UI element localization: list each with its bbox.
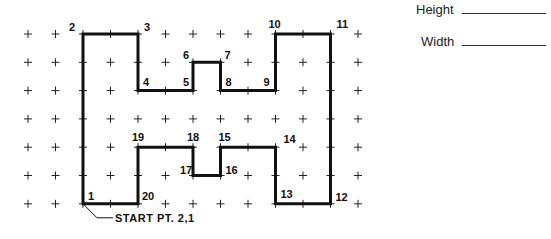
point-label-13: 13 — [281, 188, 293, 200]
grid-plus-marker — [354, 143, 362, 151]
grid-plus-marker — [107, 58, 115, 66]
point-label-4: 4 — [143, 76, 150, 88]
grid-plus-marker — [52, 143, 60, 151]
grid-plus-marker — [24, 200, 32, 208]
grid-plus-marker — [24, 143, 32, 151]
point-label-19: 19 — [132, 131, 144, 143]
grid-plus-marker — [244, 115, 252, 123]
grid-plus-marker — [24, 30, 32, 38]
grid-plus-marker — [52, 115, 60, 123]
grid-plus-marker — [217, 200, 225, 208]
point-label-15: 15 — [219, 131, 231, 143]
grid-plus-marker — [52, 172, 60, 180]
grid-plus-marker — [52, 30, 60, 38]
grid-plus-marker — [134, 115, 142, 123]
point-label-12: 12 — [336, 191, 348, 203]
grid-plus-marker — [299, 143, 307, 151]
grid-plus-marker — [354, 87, 362, 95]
grid-plus-marker — [107, 143, 115, 151]
grid-plus-marker — [217, 115, 225, 123]
grid-plus-marker — [299, 58, 307, 66]
grid-plus-marker — [244, 200, 252, 208]
grid-plus-marker — [354, 172, 362, 180]
grid-plus-marker — [107, 115, 115, 123]
grid-plus-marker — [24, 115, 32, 123]
grid-plus-marker — [52, 58, 60, 66]
grid-plus-marker — [244, 172, 252, 180]
grid-plus-marker — [24, 172, 32, 180]
point-label-18: 18 — [187, 131, 199, 143]
start-point-leader-line — [83, 204, 113, 218]
grid-plus-marker — [244, 30, 252, 38]
point-label-1: 1 — [88, 190, 94, 202]
grid-plus-marker — [272, 115, 280, 123]
grid-plus-marker — [217, 30, 225, 38]
point-label-3: 3 — [144, 21, 150, 33]
grid-plus-marker — [162, 115, 170, 123]
width-label: Width — [421, 34, 454, 49]
grid-plus-marker — [299, 87, 307, 95]
point-label-9: 9 — [264, 76, 270, 88]
grid-plus-markers — [24, 30, 362, 208]
grid-plus-marker — [299, 172, 307, 180]
grid-plus-marker — [52, 87, 60, 95]
grid-plus-marker — [162, 172, 170, 180]
point-label-20: 20 — [142, 190, 154, 202]
start-point-label: START PT. 2,1 — [115, 212, 195, 224]
grid-plus-marker — [354, 58, 362, 66]
point-label-16: 16 — [226, 164, 238, 176]
grid-plus-marker — [189, 200, 197, 208]
point-label-5: 5 — [183, 76, 189, 88]
grid-plus-marker — [162, 58, 170, 66]
grid-plus-marker — [354, 200, 362, 208]
height-label: Height — [416, 2, 454, 17]
point-label-8: 8 — [226, 76, 232, 88]
grid-plus-marker — [354, 30, 362, 38]
grid-plus-marker — [24, 58, 32, 66]
grid-plus-marker — [107, 87, 115, 95]
width-answer-blank[interactable] — [462, 44, 546, 46]
grid-plus-marker — [189, 30, 197, 38]
grid-plus-marker — [162, 30, 170, 38]
width-field: Width — [421, 34, 546, 49]
grid-plus-marker — [189, 115, 197, 123]
point-label-11: 11 — [337, 18, 349, 30]
point-label-7: 7 — [225, 49, 231, 61]
grid-plus-marker — [162, 200, 170, 208]
height-field: Height — [416, 2, 546, 17]
grid-plus-marker — [354, 115, 362, 123]
h-shape-outline — [83, 34, 331, 204]
grid-plus-marker — [299, 115, 307, 123]
grid-plus-marker — [24, 87, 32, 95]
point-label-14: 14 — [284, 133, 297, 145]
point-label-6: 6 — [183, 49, 189, 61]
point-label-17: 17 — [180, 164, 192, 176]
grid-plus-marker — [244, 58, 252, 66]
grid-plus-marker — [52, 200, 60, 208]
point-label-2: 2 — [69, 21, 75, 33]
height-answer-blank[interactable] — [462, 12, 546, 14]
grid-plus-marker — [107, 172, 115, 180]
point-label-10: 10 — [269, 18, 281, 30]
